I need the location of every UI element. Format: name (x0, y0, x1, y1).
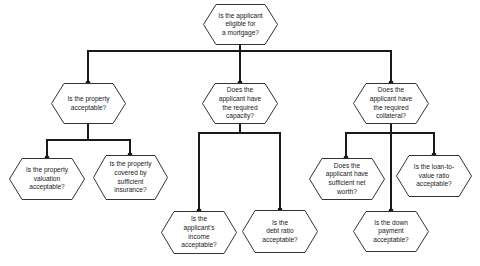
node-valuation: Is the property valuation acceptable? (9, 158, 85, 200)
node-label: Is the property covered by sufficient in… (95, 160, 165, 194)
node-label: Does the applicant have sufficient net w… (312, 162, 383, 196)
node-label: Is the applicant eligible for a mortgage… (204, 12, 276, 38)
node-label: Is the down payment acceptable? (359, 219, 423, 245)
node-root: Is the applicant eligible for a mortgage… (203, 4, 278, 45)
node-debt-ratio: Is the debt ratio acceptable? (242, 210, 318, 253)
node-label: Is the loan-to- value ratio acceptable? (400, 163, 468, 189)
node-insurance: Is the property covered by sufficient in… (93, 155, 168, 200)
node-collateral: Does the applicant have the required col… (353, 83, 429, 124)
node-down-payment: Is the down payment acceptable? (353, 211, 429, 252)
node-label: Is the debt ratio acceptable? (248, 219, 312, 245)
node-label: Is the applicant's income acceptable? (167, 215, 231, 249)
node-property: Is the property acceptable? (51, 83, 126, 124)
node-label: Does the applicant have the required cap… (205, 86, 276, 120)
node-label: Does the applicant have the required col… (356, 86, 427, 120)
node-label: Is the property valuation acceptable? (12, 166, 82, 192)
node-capacity: Does the applicant have the required cap… (202, 83, 278, 124)
node-loan-to-value: Is the loan-to- value ratio acceptable? (396, 155, 472, 197)
node-label: Is the property acceptable? (53, 95, 123, 112)
node-income: Is the applicant's income acceptable? (161, 211, 237, 254)
node-net-worth: Does the applicant have sufficient net w… (309, 158, 385, 200)
